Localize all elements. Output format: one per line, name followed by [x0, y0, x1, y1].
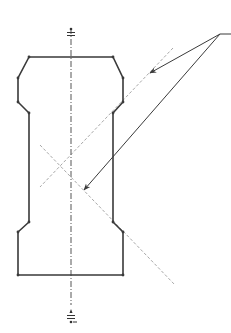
vertex-point	[17, 77, 20, 80]
vertex-point	[112, 112, 115, 115]
leader-arrow-1	[150, 34, 220, 73]
technical-drawing	[0, 0, 231, 333]
vertex-point	[112, 221, 115, 224]
vertex-point	[28, 221, 31, 224]
vertex-point	[122, 274, 125, 277]
vertex-point	[28, 56, 31, 59]
vertex-point	[28, 112, 31, 115]
vertex-point	[112, 56, 115, 59]
vertex-point	[122, 231, 125, 234]
vertex-point	[17, 274, 20, 277]
vertex-point	[122, 101, 125, 104]
dashed-plane-line-1	[40, 48, 173, 187]
vertex-point	[17, 231, 20, 234]
dashed-plane-line-2	[40, 145, 175, 285]
vertex-point	[122, 77, 125, 80]
axis-symbol-bottom-icon	[67, 309, 77, 323]
vertex-point	[17, 101, 20, 104]
